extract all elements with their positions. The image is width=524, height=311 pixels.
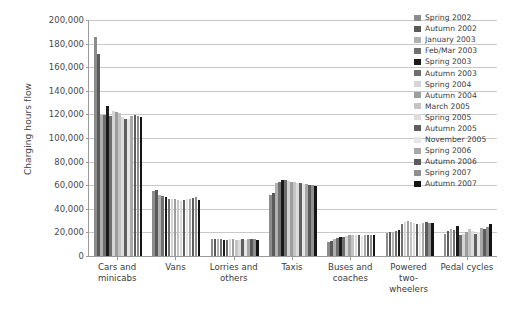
legend-swatch-icon (414, 92, 421, 98)
x-tick-mark (409, 256, 410, 260)
legend-item[interactable]: Autumn 2007 (414, 178, 524, 189)
y-tick-label: 60,000 (54, 180, 84, 190)
legend-item[interactable]: Autumn 2003 (414, 67, 524, 78)
legend-item[interactable]: Autumn 2005 (414, 123, 524, 134)
legend-label: Autumn 2003 (425, 69, 477, 78)
x-tick-mark (292, 256, 293, 260)
x-tick-cell (438, 256, 496, 260)
bar (314, 186, 317, 256)
legend-item[interactable]: Feb/Mar 2003 (414, 45, 524, 56)
bar (431, 223, 434, 256)
legend-swatch-icon (414, 70, 421, 76)
legend-label: Autumn 2005 (425, 124, 477, 133)
x-tick-cell (205, 256, 263, 260)
x-axis-label: Vans (146, 262, 204, 295)
legend-item[interactable]: March 2005 (414, 101, 524, 112)
y-tick-label: 100,000 (49, 133, 84, 143)
legend-item[interactable]: Autumn 2006 (414, 156, 524, 167)
legend-swatch-icon (414, 114, 421, 120)
y-tick-label: 0 (79, 251, 84, 261)
legend-item[interactable]: Autumn 2002 (414, 23, 524, 34)
y-tick-label: 180,000 (49, 39, 84, 49)
legend-label: Autumn 2002 (425, 24, 477, 33)
y-tick-label: 80,000 (54, 157, 84, 167)
legend-swatch-icon (414, 37, 421, 43)
x-axis-label: Powered two-wheelers (379, 262, 437, 295)
legend-swatch-icon (414, 170, 421, 176)
legend-label: Spring 2005 (425, 113, 471, 122)
legend-swatch-icon (414, 159, 421, 165)
x-tick-cell (146, 256, 204, 260)
legend-label: Autumn 2004 (425, 91, 477, 100)
x-tick-cell (379, 256, 437, 260)
y-tick-label: 200,000 (49, 15, 84, 25)
y-tick-label: 160,000 (49, 62, 84, 72)
legend-label: January 2003 (425, 35, 476, 44)
x-axis-labels: Cars and minicabsVansLorries and othersT… (88, 262, 496, 295)
legend-item[interactable]: Spring 2002 (414, 12, 524, 23)
bar-chart: Charging hours flow 200,000180,000160,00… (0, 0, 524, 311)
legend-item[interactable]: Spring 2007 (414, 167, 524, 178)
legend-label: Spring 2003 (425, 57, 471, 66)
x-axis-label: Taxis (263, 262, 321, 295)
bar (489, 224, 492, 256)
bar-group (147, 20, 205, 256)
legend: Spring 2002Autumn 2002January 2003Feb/Ma… (414, 12, 524, 190)
legend-item[interactable]: Spring 2006 (414, 145, 524, 156)
legend-label: Spring 2007 (425, 168, 471, 177)
x-tick-mark (117, 256, 118, 260)
legend-label: Feb/Mar 2003 (425, 46, 477, 55)
bar (256, 240, 259, 256)
legend-item[interactable]: Autumn 2004 (414, 90, 524, 101)
x-tick-mark (234, 256, 235, 260)
legend-swatch-icon (414, 103, 421, 109)
legend-swatch-icon (414, 59, 421, 65)
y-tick-label: 120,000 (49, 109, 84, 119)
legend-swatch-icon (414, 148, 421, 154)
legend-swatch-icon (414, 181, 421, 187)
legend-label: Spring 2002 (425, 13, 471, 22)
bar (198, 200, 201, 256)
legend-swatch-icon (414, 15, 421, 21)
legend-item[interactable]: November 2005 (414, 134, 524, 145)
y-tick-label: 20,000 (54, 227, 84, 237)
bar (373, 235, 376, 256)
bar-group (322, 20, 380, 256)
legend-swatch-icon (414, 48, 421, 54)
x-tick-cell (263, 256, 321, 260)
legend-label: March 2005 (425, 102, 470, 111)
legend-swatch-icon (414, 26, 421, 32)
x-axis-ticks (88, 256, 496, 260)
x-tick-mark (350, 256, 351, 260)
legend-label: Autumn 2006 (425, 157, 477, 166)
bar-group (89, 20, 147, 256)
bar-group (264, 20, 322, 256)
x-tick-cell (88, 256, 146, 260)
legend-item[interactable]: January 2003 (414, 34, 524, 45)
bar-group (206, 20, 264, 256)
legend-swatch-icon (414, 81, 421, 87)
x-tick-cell (321, 256, 379, 260)
bar (140, 117, 143, 256)
legend-label: November 2005 (425, 135, 486, 144)
x-axis-label: Pedal cycles (438, 262, 496, 295)
legend-label: Autumn 2007 (425, 179, 477, 188)
y-tick-label: 40,000 (54, 204, 84, 214)
legend-label: Spring 2006 (425, 146, 471, 155)
y-axis-title: Charging hours flow (23, 49, 33, 209)
legend-swatch-icon (414, 125, 421, 131)
legend-label: Spring 2004 (425, 80, 471, 89)
y-tick-label: 140,000 (49, 86, 84, 96)
x-axis-label: Buses and coaches (321, 262, 379, 295)
x-tick-mark (467, 256, 468, 260)
x-axis-label: Lorries and others (205, 262, 263, 295)
legend-item[interactable]: Spring 2003 (414, 56, 524, 67)
x-tick-mark (175, 256, 176, 260)
x-axis-label: Cars and minicabs (88, 262, 146, 295)
legend-item[interactable]: Spring 2005 (414, 112, 524, 123)
legend-item[interactable]: Spring 2004 (414, 79, 524, 90)
legend-swatch-icon (414, 137, 421, 143)
